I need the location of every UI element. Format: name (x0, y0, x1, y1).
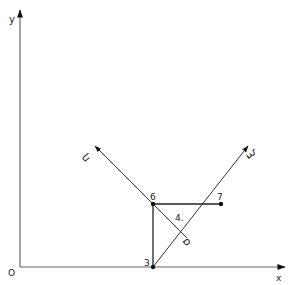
xi-label: ξ (244, 148, 258, 161)
x-axis-label: x (276, 273, 282, 283)
node-3 (151, 265, 155, 269)
node-6-label: 6 (150, 192, 156, 202)
element-label: 4. (175, 213, 184, 223)
node-7 (219, 202, 223, 206)
triangle-element-diagram: y x O 3 6 7 4. σ η ξ (0, 0, 296, 285)
node-6 (151, 202, 155, 206)
origin-label: O (8, 268, 15, 278)
node-3-label: 3 (144, 258, 150, 268)
eta-label: η (78, 151, 92, 165)
y-axis-label: y (9, 14, 15, 25)
node-7-label: 7 (217, 192, 223, 202)
xi-axis (153, 146, 248, 267)
eta-axis (95, 146, 187, 238)
